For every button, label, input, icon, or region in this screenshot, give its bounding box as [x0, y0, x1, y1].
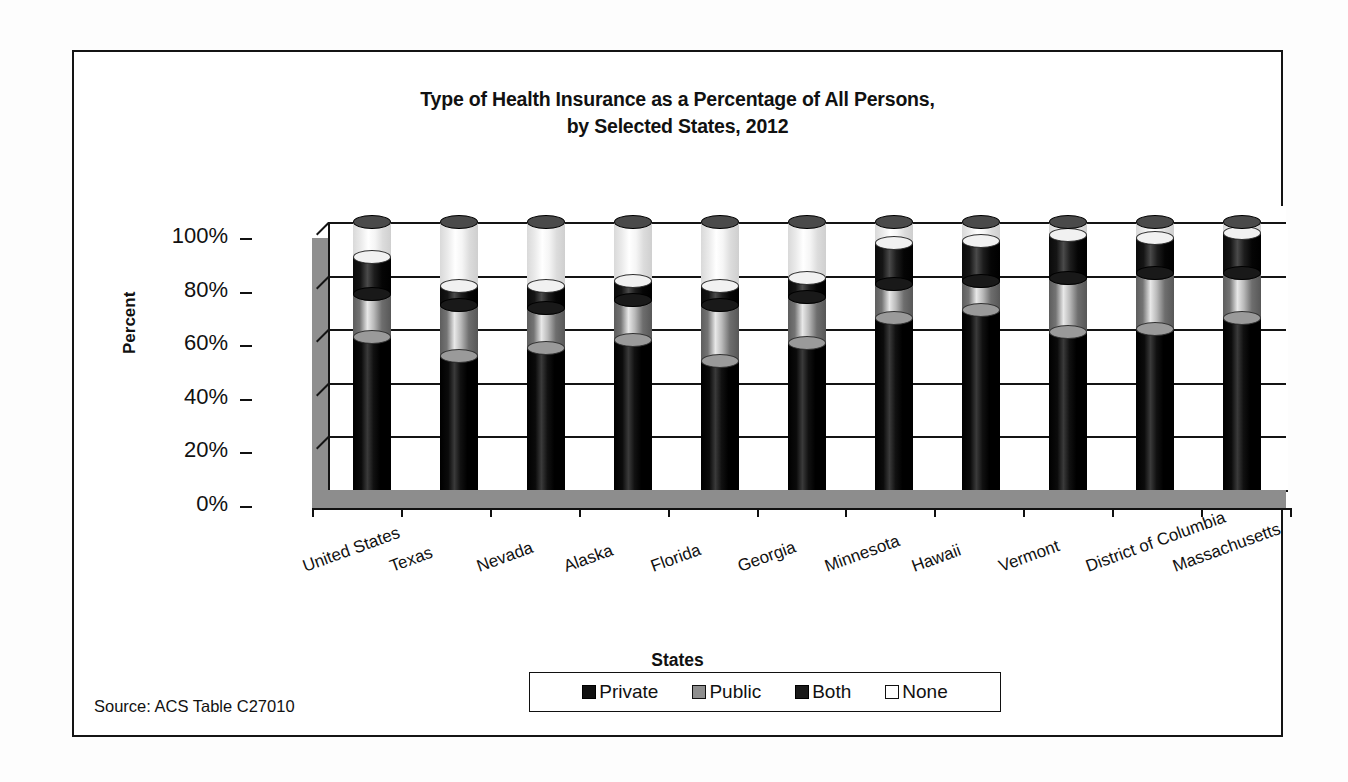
x-axis-line — [312, 508, 1290, 510]
segment-bottom-cap — [440, 298, 478, 312]
segment-top-cap — [527, 215, 565, 229]
bar-segment-public[interactable] — [1049, 278, 1087, 332]
bar-segment-private[interactable] — [527, 348, 565, 490]
segment-bottom-cap — [701, 298, 739, 312]
bar-segment-private[interactable] — [1223, 318, 1261, 490]
bar-column[interactable] — [788, 222, 826, 490]
x-axis-tick — [1112, 508, 1114, 517]
bar-segment-public[interactable] — [701, 305, 739, 361]
bar-segment-none[interactable] — [962, 222, 1000, 241]
segment-bottom-cap — [875, 277, 913, 291]
segment-body — [875, 318, 913, 490]
segment-body — [701, 222, 739, 286]
bar-segment-public[interactable] — [1136, 273, 1174, 329]
bar-column[interactable] — [614, 222, 652, 490]
x-axis-tick — [490, 508, 492, 517]
segment-body — [788, 222, 826, 278]
bar-segment-none[interactable] — [701, 222, 739, 286]
legend-swatch-icon — [795, 685, 809, 699]
segment-body — [527, 222, 565, 286]
legend-label: Public — [709, 681, 761, 703]
segment-body — [1223, 318, 1261, 490]
bar-column[interactable] — [1136, 222, 1174, 490]
segment-body — [1049, 332, 1087, 490]
segment-bottom-cap — [440, 349, 478, 363]
legend-item[interactable]: Public — [692, 681, 761, 703]
bar-segment-private[interactable] — [875, 318, 913, 490]
x-axis-tick — [1023, 508, 1025, 517]
bar-column[interactable] — [440, 222, 478, 490]
bar-column[interactable] — [353, 222, 391, 490]
bar-segment-none[interactable] — [1223, 222, 1261, 233]
bar-column[interactable] — [875, 222, 913, 490]
bar-segment-none[interactable] — [353, 222, 391, 257]
segment-body — [701, 361, 739, 490]
segment-bottom-cap — [962, 234, 1000, 248]
bar-segment-none[interactable] — [875, 222, 913, 243]
chart-legend: PrivatePublicBothNone — [529, 672, 1001, 712]
y-tick-80 — [240, 292, 252, 294]
segment-bottom-cap — [614, 293, 652, 307]
segment-top-cap — [788, 215, 826, 229]
bar-segment-private[interactable] — [701, 361, 739, 490]
x-axis-tick — [1290, 508, 1292, 517]
segment-bottom-cap — [614, 274, 652, 288]
legend-swatch-icon — [582, 685, 596, 699]
segment-top-cap — [875, 215, 913, 229]
bar-segment-private[interactable] — [353, 337, 391, 490]
bar-segment-private[interactable] — [1136, 329, 1174, 490]
y-axis-tick-label: 100% — [136, 225, 228, 247]
bar-column[interactable] — [527, 222, 565, 490]
segment-top-cap — [701, 215, 739, 229]
bar-segment-none[interactable] — [1049, 222, 1087, 235]
legend-item[interactable]: Both — [795, 681, 851, 703]
bar-segment-none[interactable] — [1136, 222, 1174, 238]
plot-floor — [312, 490, 1286, 508]
bar-column[interactable] — [1049, 222, 1087, 490]
segment-bottom-cap — [788, 336, 826, 350]
bar-segment-none[interactable] — [440, 222, 478, 286]
legend-swatch-icon — [692, 685, 706, 699]
chart-title-line-1: Type of Health Insurance as a Percentage… — [420, 88, 934, 110]
y-tick-100 — [240, 238, 252, 240]
bar-segment-none[interactable] — [614, 222, 652, 281]
segment-body — [962, 310, 1000, 490]
legend-item[interactable]: None — [885, 681, 947, 703]
y-tick-60 — [240, 345, 252, 347]
x-axis-tick — [668, 508, 670, 517]
bar-segment-none[interactable] — [788, 222, 826, 278]
segment-bottom-cap — [353, 330, 391, 344]
segment-body — [701, 305, 739, 361]
segment-bottom-cap — [1049, 325, 1087, 339]
chart-frame: Type of Health Insurance as a Percentage… — [72, 50, 1283, 737]
bar-column[interactable] — [1223, 222, 1261, 490]
legend-label: None — [902, 681, 947, 703]
y-axis-tick-label: 60% — [136, 332, 228, 354]
bar-segment-private[interactable] — [962, 310, 1000, 490]
segment-top-cap — [440, 215, 478, 229]
segment-body — [788, 343, 826, 490]
x-axis-tick — [934, 508, 936, 517]
bar-segment-private[interactable] — [1049, 332, 1087, 490]
segment-body — [1136, 329, 1174, 490]
legend-swatch-icon — [885, 685, 899, 699]
segment-bottom-cap — [527, 341, 565, 355]
x-axis-category-labels: United StatesTexasNevadaAlaskaFloridaGeo… — [256, 552, 1286, 648]
bar-segment-private[interactable] — [440, 356, 478, 490]
segment-bottom-cap — [962, 274, 1000, 288]
bar-column[interactable] — [962, 222, 1000, 490]
segment-bottom-cap — [527, 301, 565, 315]
segment-bottom-cap — [788, 290, 826, 304]
bar-column[interactable] — [701, 222, 739, 490]
segment-body — [353, 337, 391, 490]
bar-segment-private[interactable] — [614, 340, 652, 490]
chart-page: Type of Health Insurance as a Percentage… — [0, 0, 1348, 782]
bar-segment-public[interactable] — [440, 305, 478, 356]
bar-segment-none[interactable] — [527, 222, 565, 286]
bar-segment-private[interactable] — [788, 343, 826, 490]
legend-item[interactable]: Private — [582, 681, 658, 703]
segment-bottom-cap — [1136, 266, 1174, 280]
segment-top-cap — [962, 215, 1000, 229]
segment-bottom-cap — [614, 333, 652, 347]
y-axis-tick-label: 0% — [136, 493, 228, 515]
